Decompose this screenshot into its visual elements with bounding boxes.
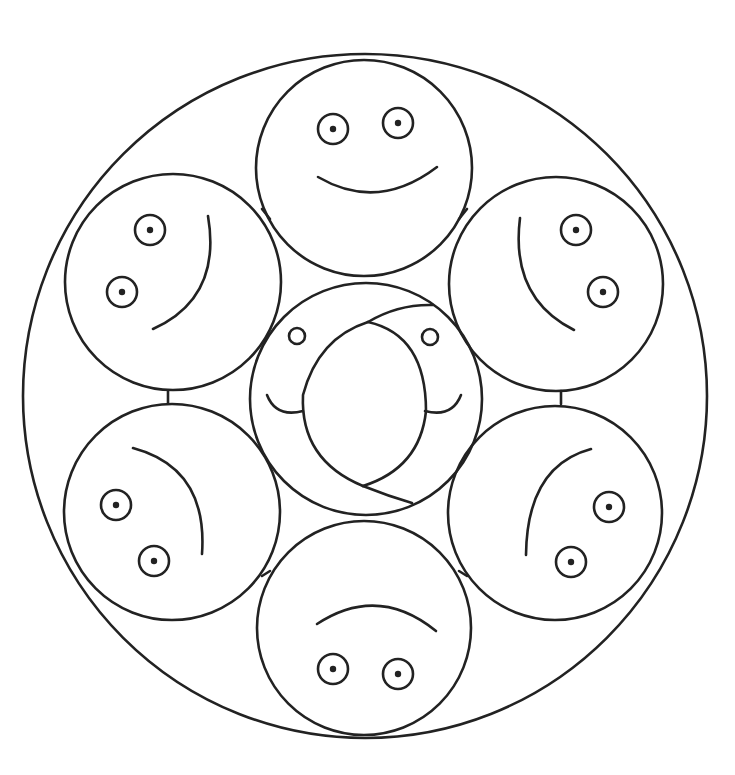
face-upper-left <box>65 174 281 390</box>
center-eye-icon <box>422 329 438 345</box>
eye-pupil-icon <box>606 504 612 510</box>
faces <box>64 60 663 735</box>
mouth-arc <box>519 218 574 330</box>
outer-circle <box>23 54 707 738</box>
mouth-arc <box>318 167 437 192</box>
mouth-arc <box>317 606 436 631</box>
face-upper-right <box>449 177 663 391</box>
face-circle <box>448 406 662 620</box>
eye-pupil-icon <box>113 502 119 508</box>
center-smile-arc <box>425 395 461 413</box>
mouth-arc <box>133 448 202 554</box>
eye-pupil-icon <box>330 666 336 672</box>
center-swirl-arc <box>363 322 426 486</box>
face-bottom <box>257 521 471 735</box>
mandala-coloring-page <box>0 0 735 775</box>
mouth-arc <box>526 449 591 555</box>
face-circle <box>257 521 471 735</box>
center-swirl-arc <box>363 486 412 503</box>
face-lower-left <box>64 404 280 620</box>
eye-pupil-icon <box>395 120 401 126</box>
eye-pupil-icon <box>147 227 153 233</box>
eye-pupil-icon <box>330 126 336 132</box>
face-circle <box>65 174 281 390</box>
center-circle <box>250 283 482 515</box>
eye-pupil-icon <box>573 227 579 233</box>
center-swirl-arc <box>368 305 433 322</box>
face-circle <box>449 177 663 391</box>
face-lower-right <box>448 406 662 620</box>
center-face <box>250 283 482 515</box>
eye-pupil-icon <box>568 559 574 565</box>
center-smile-arc <box>267 395 303 413</box>
center-swirl-arc <box>303 322 368 486</box>
mouth-arc <box>153 216 210 329</box>
face-circle <box>256 60 472 276</box>
eye-pupil-icon <box>151 558 157 564</box>
eye-pupil-icon <box>600 289 606 295</box>
eye-pupil-icon <box>119 289 125 295</box>
face-circle <box>64 404 280 620</box>
center-eye-icon <box>289 328 305 344</box>
eye-pupil-icon <box>395 671 401 677</box>
face-top <box>256 60 472 276</box>
